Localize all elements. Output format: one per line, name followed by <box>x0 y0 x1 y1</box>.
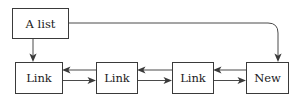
node-link1[interactable]: Link <box>16 63 63 94</box>
edge-head-to-new <box>69 23 279 55</box>
node-head[interactable]: A list <box>13 9 69 39</box>
node-link3[interactable]: Link <box>173 63 214 94</box>
node-new-label: New <box>254 71 281 85</box>
node-link2[interactable]: Link <box>97 63 138 94</box>
node-link2-label: Link <box>104 71 131 85</box>
node-new[interactable]: New <box>247 63 289 94</box>
node-link3-label: Link <box>180 71 207 85</box>
diagram-canvas: A list Link Link Link New <box>0 0 297 99</box>
node-link1-label: Link <box>26 71 53 85</box>
linked-list-diagram: A list Link Link Link New <box>0 0 297 99</box>
node-head-label: A list <box>25 17 56 31</box>
